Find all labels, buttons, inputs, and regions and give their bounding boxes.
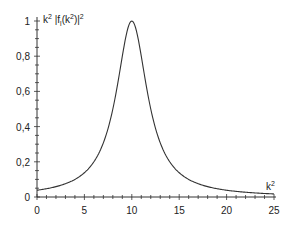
y-tick-label: 0	[24, 192, 30, 203]
x-tick-label: 15	[174, 205, 186, 216]
plot-area: 051015202500,20,40,60,81k2 |fl(k2)|2k2	[16, 13, 280, 216]
x-tick-label: 20	[221, 205, 233, 216]
y-tick-label: 0,6	[16, 86, 30, 97]
x-axis-label: k2	[266, 180, 275, 192]
resonance-chart: 051015202500,20,40,60,81k2 |fl(k2)|2k2	[0, 0, 296, 225]
y-tick-label: 0,8	[16, 51, 30, 62]
y-axis-label: k2 |fl(k2)|2	[43, 13, 84, 27]
y-tick-label: 0,4	[16, 122, 30, 133]
x-tick-label: 0	[34, 205, 40, 216]
x-tick-label: 5	[82, 205, 88, 216]
resonance-curve	[37, 21, 274, 194]
y-tick-label: 0,2	[16, 157, 30, 168]
x-tick-label: 25	[268, 205, 280, 216]
x-tick-label: 10	[126, 205, 138, 216]
y-tick-label: 1	[24, 16, 30, 27]
